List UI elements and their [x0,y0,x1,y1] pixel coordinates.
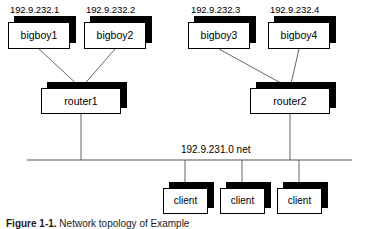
node-router1[interactable]: router1 [41,88,121,114]
network-bus-label: 192.9.231.0 net [178,144,254,155]
figure-caption: Figure 1-1. Network topology of Example [6,218,189,229]
node-bigboy4[interactable]: bigboy4 [268,22,330,49]
node-face: router2 [250,88,330,114]
node-label: client [288,196,311,206]
node-client-1[interactable]: client [163,188,208,214]
node-face: router1 [41,88,121,114]
node-label: bigboy3 [201,30,238,41]
node-face: bigboy3 [188,22,250,49]
ip-label-bigboy1: 192.9.232.1 [10,4,59,15]
ip-label-bigboy3: 192.9.232.3 [191,4,240,15]
node-face: client [220,188,265,214]
node-bigboy2[interactable]: bigboy2 [84,22,146,49]
node-client-2[interactable]: client [220,188,265,214]
node-label: client [231,196,254,206]
figure-number: Figure 1-1. [6,218,57,229]
node-face: bigboy1 [8,22,70,49]
node-label: bigboy4 [281,30,318,41]
node-label: client [174,196,197,206]
node-label: router1 [64,96,97,107]
node-bigboy1[interactable]: bigboy1 [8,22,70,49]
node-face: client [277,188,322,214]
network-diagram: 192.9.232.1 192.9.232.2 192.9.232.3 192.… [0,0,365,229]
node-router2[interactable]: router2 [250,88,330,114]
figure-caption-text: Network topology of Example [59,218,189,229]
node-face: client [163,188,208,214]
node-label: bigboy2 [97,30,134,41]
node-bigboy3[interactable]: bigboy3 [188,22,250,49]
node-label: router2 [273,96,306,107]
ip-label-bigboy2: 192.9.232.2 [86,4,135,15]
node-face: bigboy4 [268,22,330,49]
ip-label-bigboy4: 192.9.232.4 [270,4,319,15]
node-label: bigboy1 [21,30,58,41]
node-face: bigboy2 [84,22,146,49]
node-client-3[interactable]: client [277,188,322,214]
